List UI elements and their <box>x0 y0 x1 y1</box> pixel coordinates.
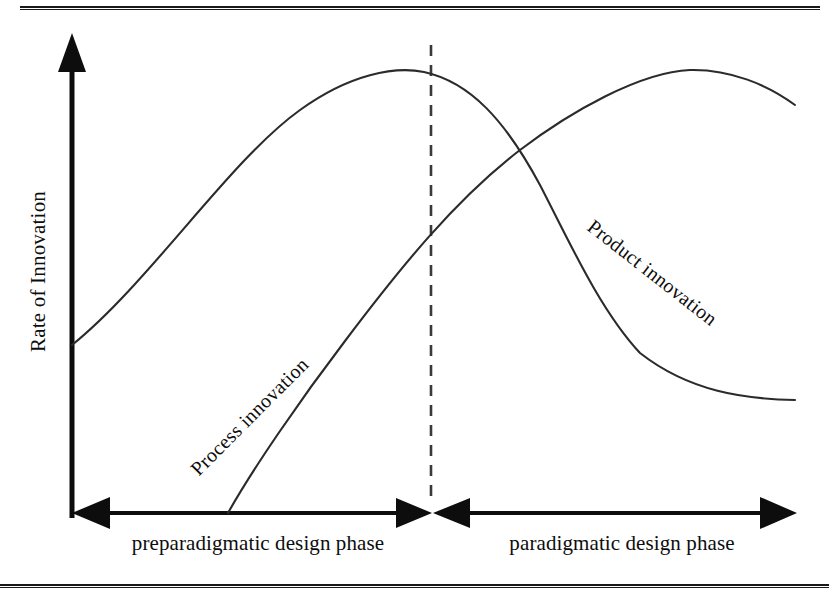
process-innovation-curve <box>228 70 795 513</box>
y-axis-label: Rate of Innovation <box>26 191 51 352</box>
x-axis-boundary-arrowhead-right <box>396 498 432 528</box>
x-axis-boundary-arrowhead-left <box>433 498 470 528</box>
figure-page: Rate of Innovation Process innovation Pr… <box>0 0 829 597</box>
phase-label-paradigmatic: paradigmatic design phase <box>466 531 778 556</box>
phase-label-preparadigmatic: preparadigmatic design phase <box>98 531 418 556</box>
bottom-rule-inner <box>0 587 829 588</box>
bottom-rule-outer <box>0 584 829 586</box>
x-axis-right-arrowhead <box>760 497 797 529</box>
x-axis-left-arrowhead <box>72 497 110 529</box>
y-axis-arrowhead <box>58 33 86 72</box>
product-innovation-curve <box>72 70 795 400</box>
